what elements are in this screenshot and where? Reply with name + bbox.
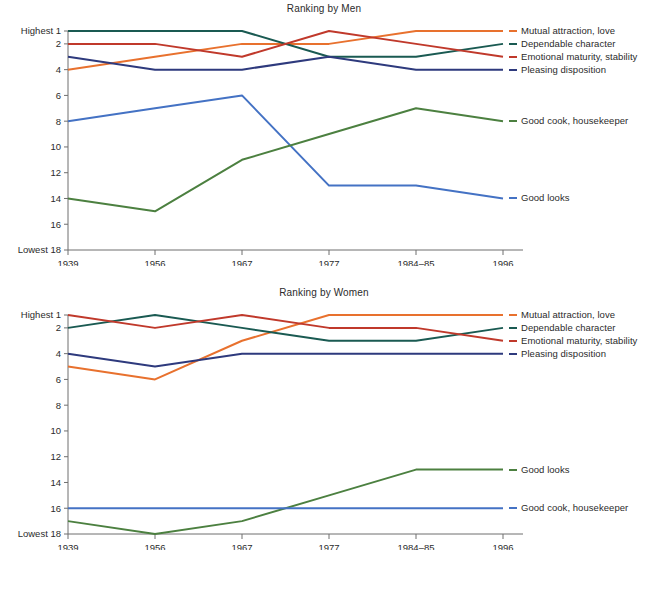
- chart-title-men: Ranking by Men: [0, 0, 648, 18]
- y-tick-label: Highest 1: [21, 25, 61, 36]
- series-line-pleasing-disposition: [68, 57, 503, 70]
- x-tick-label: 1939: [57, 258, 78, 266]
- series-line-good-cook-housekeeper: [68, 108, 503, 211]
- y-tick-label: 14: [50, 477, 61, 488]
- y-tick-label: 12: [50, 451, 61, 462]
- series-line-pleasing-disposition: [68, 354, 503, 367]
- y-tick-label: 10: [50, 141, 61, 152]
- y-tick-label: Lowest 18: [18, 244, 61, 255]
- y-tick-label: 8: [56, 400, 61, 411]
- y-tick-label: 6: [56, 374, 61, 385]
- x-tick-label: 1939: [57, 542, 78, 550]
- y-tick-label: Highest 1: [21, 309, 61, 320]
- x-tick-label: 1956: [144, 258, 165, 266]
- x-tick-label: 1996: [492, 542, 513, 550]
- y-tick-label: 10: [50, 425, 61, 436]
- panel-ranking-by-men: Ranking by Men Highest 1246810121416Lowe…: [0, 0, 648, 266]
- y-tick-label: 8: [56, 116, 61, 127]
- x-tick-label: 1996: [492, 258, 513, 266]
- y-tick-label: 2: [56, 38, 61, 49]
- x-tick-label: 1956: [144, 542, 165, 550]
- y-tick-label: 4: [56, 64, 61, 75]
- y-tick-label: 16: [50, 219, 61, 230]
- plot-area-men: Highest 1246810121416Lowest 181939195619…: [0, 18, 648, 266]
- y-tick-label: 12: [50, 167, 61, 178]
- panel-ranking-by-women: Ranking by Women Highest 1246810121416Lo…: [0, 284, 648, 550]
- chart-title-women: Ranking by Women: [0, 284, 648, 302]
- line-chart-men: Highest 1246810121416Lowest 181939195619…: [0, 18, 648, 266]
- y-tick-label: 6: [56, 90, 61, 101]
- y-tick-label: 2: [56, 322, 61, 333]
- y-tick-label: Lowest 18: [18, 528, 61, 539]
- line-chart-women: Highest 1246810121416Lowest 181939195619…: [0, 302, 648, 550]
- x-tick-label: 1984–85: [398, 258, 435, 266]
- series-line-good-looks: [68, 470, 503, 534]
- x-tick-label: 1967: [231, 542, 252, 550]
- y-tick-label: 4: [56, 348, 61, 359]
- y-tick-label: 16: [50, 503, 61, 514]
- plot-area-women: Highest 1246810121416Lowest 181939195619…: [0, 302, 648, 550]
- y-tick-label: 14: [50, 193, 61, 204]
- x-tick-label: 1977: [318, 258, 339, 266]
- x-tick-label: 1977: [318, 542, 339, 550]
- x-tick-label: 1984–85: [398, 542, 435, 550]
- x-tick-label: 1967: [231, 258, 252, 266]
